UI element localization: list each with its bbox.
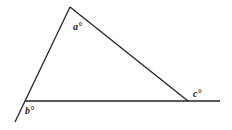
- left-side-line: [15, 7, 70, 122]
- triangle-diagram: a° b° c°: [0, 0, 232, 130]
- angle-a-label: a°: [73, 21, 82, 32]
- angle-b-label: b°: [25, 105, 34, 116]
- angle-c-label: c°: [193, 88, 201, 99]
- right-side-line: [70, 7, 188, 101]
